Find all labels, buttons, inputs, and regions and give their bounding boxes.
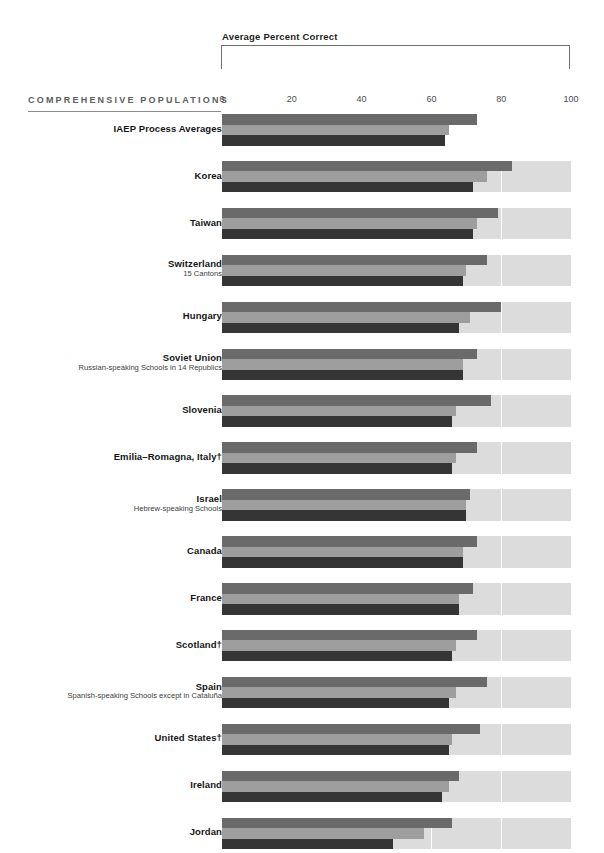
bar-4-series-2 — [222, 265, 466, 276]
bar-2-series-2 — [222, 171, 487, 182]
row-bars — [222, 771, 571, 803]
row-label-taiwan: Taiwan — [190, 218, 222, 229]
row-label-name: Canada — [187, 546, 222, 557]
row-label-iaep-process-averages: IAEP Process Averages — [114, 124, 222, 135]
gridline-80 — [501, 349, 502, 381]
chart-title: Average Percent Correct — [222, 31, 338, 42]
gridline-80 — [501, 724, 502, 756]
row-label-name: Slovenia — [182, 405, 222, 416]
bar-6-series-1 — [222, 349, 477, 360]
chart-row: Soviet UnionRussian-speaking Schools in … — [0, 348, 604, 386]
chart-row: Taiwan — [0, 207, 604, 245]
row-label-sublabel: Hebrew-speaking Schools — [134, 505, 222, 514]
x-axis-tick-40: 40 — [357, 94, 367, 104]
chart-row: Jordan — [0, 817, 604, 853]
row-bars — [222, 208, 571, 240]
row-label-name: Scotland† — [176, 640, 222, 651]
gridline-80 — [501, 442, 502, 474]
chart-row: Hungary — [0, 301, 604, 339]
row-label-name: United States† — [155, 733, 222, 744]
bar-12-series-3 — [222, 651, 452, 662]
row-bars — [222, 536, 571, 568]
bar-6-series-3 — [222, 370, 463, 381]
bar-3-series-2 — [222, 218, 477, 229]
row-label-ireland: Ireland — [190, 780, 222, 791]
chart-row: SpainSpanish-speaking Schools except in … — [0, 676, 604, 714]
bar-12-series-1 — [222, 630, 477, 641]
bar-8-series-3 — [222, 463, 452, 474]
chart-row: United States† — [0, 723, 604, 761]
section-header-rule — [28, 111, 221, 112]
x-axis-tick-0: 0 — [219, 94, 224, 104]
row-label-name: Taiwan — [190, 218, 222, 229]
row-bars — [222, 583, 571, 615]
gridline-80 — [501, 208, 502, 240]
row-bars — [222, 724, 571, 756]
bar-1-series-1 — [222, 114, 477, 125]
bar-10-series-1 — [222, 536, 477, 547]
row-bars — [222, 349, 571, 381]
chart-row: Slovenia — [0, 394, 604, 432]
row-bars — [222, 395, 571, 427]
gridline-80 — [501, 771, 502, 803]
bar-5-series-3 — [222, 323, 459, 334]
bar-13-series-3 — [222, 698, 449, 709]
row-label-hungary: Hungary — [183, 311, 222, 322]
bar-15-series-1 — [222, 771, 459, 782]
bar-8-series-2 — [222, 453, 456, 464]
chart-row: IsraelHebrew-speaking Schools — [0, 488, 604, 526]
gridline-80 — [501, 630, 502, 662]
bar-16-series-2 — [222, 828, 424, 839]
bar-8-series-1 — [222, 442, 477, 453]
bar-14-series-3 — [222, 745, 449, 756]
bar-11-series-3 — [222, 604, 459, 615]
bar-12-series-2 — [222, 640, 456, 651]
row-label-israel: IsraelHebrew-speaking Schools — [134, 494, 222, 513]
bar-6-series-2 — [222, 359, 463, 370]
chart-row: Ireland — [0, 770, 604, 808]
row-label-slovenia: Slovenia — [182, 405, 222, 416]
bar-2-series-3 — [222, 182, 473, 193]
row-label-sublabel: Russian-speaking Schools in 14 Republics — [78, 364, 222, 373]
bar-11-series-1 — [222, 583, 473, 594]
row-label-soviet-union: Soviet UnionRussian-speaking Schools in … — [78, 353, 222, 372]
row-label-korea: Korea — [195, 171, 222, 182]
row-bars — [222, 302, 571, 334]
bar-15-series-3 — [222, 792, 442, 803]
row-label-name: Korea — [195, 171, 222, 182]
row-label-name: Hungary — [183, 311, 222, 322]
bar-15-series-2 — [222, 781, 449, 792]
bar-4-series-3 — [222, 276, 463, 287]
chart-row: Korea — [0, 160, 604, 198]
row-label-scotland: Scotland† — [176, 640, 222, 651]
x-axis-tick-100: 100 — [563, 94, 578, 104]
bar-10-series-3 — [222, 557, 463, 568]
bracket-outline — [221, 45, 570, 69]
row-label-sublabel: 15 Cantons — [168, 270, 222, 279]
gridline-80 — [501, 489, 502, 521]
bar-7-series-1 — [222, 395, 491, 406]
row-label-france: France — [190, 593, 222, 604]
row-label-name: Ireland — [190, 780, 222, 791]
row-label-switzerland: Switzerland15 Cantons — [168, 259, 222, 278]
bar-2-series-1 — [222, 161, 512, 172]
row-bars — [222, 161, 571, 193]
gridline-80 — [501, 395, 502, 427]
row-label-emilia-romagna-italy: Emilia–Romagna, Italy† — [114, 452, 222, 463]
x-axis: 020406080100 — [0, 94, 604, 110]
row-label-name: IAEP Process Averages — [114, 124, 222, 135]
row-bars — [222, 630, 571, 662]
row-label-name: Israel — [134, 494, 222, 505]
bar-5-series-1 — [222, 302, 501, 313]
row-label-united-states: United States† — [155, 733, 222, 744]
gridline-80 — [501, 255, 502, 287]
row-bars — [222, 255, 571, 287]
chart-row: Switzerland15 Cantons — [0, 254, 604, 292]
bar-3-series-1 — [222, 208, 498, 219]
chart-row: France — [0, 582, 604, 620]
row-bars — [222, 818, 571, 850]
bar-13-series-2 — [222, 687, 456, 698]
bar-7-series-2 — [222, 406, 456, 417]
row-label-name: France — [190, 593, 222, 604]
bar-16-series-1 — [222, 818, 452, 829]
